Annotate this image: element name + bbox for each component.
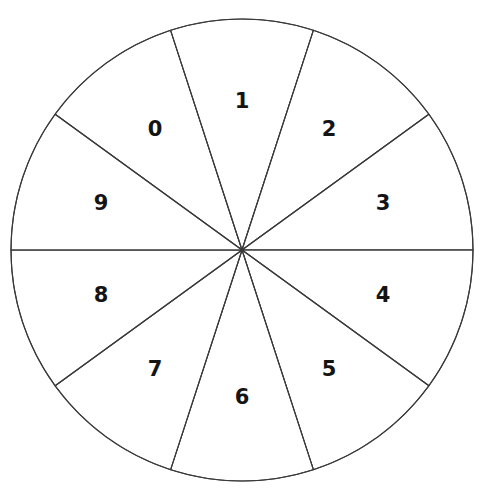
pie-sector-label-3: 3 <box>376 191 391 215</box>
pie-sector-label-7: 7 <box>148 357 163 381</box>
pie-wheel-svg: 0123456789 <box>0 0 480 497</box>
pie-sector-label-8: 8 <box>94 283 109 307</box>
pie-sector-label-5: 5 <box>322 357 337 381</box>
pie-sector-label-0: 0 <box>148 117 163 141</box>
pie-sector-label-4: 4 <box>376 283 391 307</box>
pie-sector-label-2: 2 <box>322 117 337 141</box>
pie-sector-label-1: 1 <box>235 89 250 113</box>
pie-sector-label-6: 6 <box>235 385 250 409</box>
pie-sector-label-9: 9 <box>94 191 109 215</box>
pie-wheel-figure: 0123456789 <box>0 0 480 497</box>
